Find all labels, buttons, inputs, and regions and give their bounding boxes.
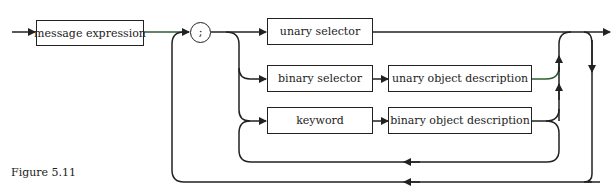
message-expression-label: message expression (34, 27, 146, 40)
unary-selector-box: unary selector (267, 18, 373, 45)
binary-selector-label: binary selector (278, 72, 362, 85)
binary-object-description-label: binary object description (390, 114, 530, 127)
to-keyword-arrow (239, 68, 266, 121)
keyword-box: keyword (267, 107, 373, 134)
unary-object-description-label: unary object description (392, 72, 528, 85)
message-expression-box: message expression (36, 20, 144, 46)
semicolon-circle: ; (190, 22, 211, 43)
figure-caption: Figure 5.11 (11, 166, 76, 179)
binary-object-description-box: binary object description (388, 107, 532, 134)
binary-selector-box: binary selector (267, 65, 373, 92)
unary-selector-label: unary selector (280, 25, 360, 38)
unary-object-merge (531, 67, 559, 79)
keyword-label: keyword (296, 114, 344, 127)
merge-vertical (559, 32, 571, 121)
semicolon-label: ; (199, 26, 203, 39)
to-binary-selector-arrow (226, 32, 266, 79)
unary-object-description-box: unary object description (388, 65, 532, 92)
binary-object-merge (531, 109, 559, 121)
